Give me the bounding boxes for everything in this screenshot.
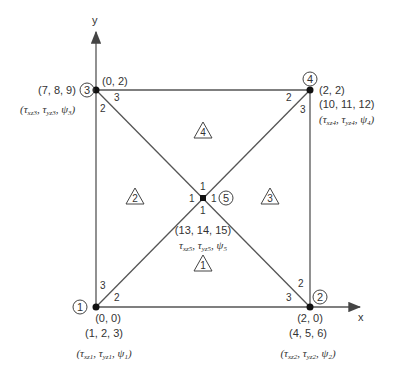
node-1-coord: (0, 0) [95, 312, 121, 324]
finite-element-mesh-diagram: y x 1 2 3 4 5 (0, 2) (7, 8, 9) (τxz3, τy… [0, 0, 410, 378]
x-axis-label: x [358, 311, 364, 323]
local-label: 3 [300, 104, 306, 115]
svg-text:1: 1 [200, 260, 206, 271]
svg-text:2: 2 [132, 193, 138, 204]
element-1-marker: 1 [194, 255, 212, 271]
element-4-marker: 4 [194, 122, 212, 138]
local-label: 2 [298, 278, 304, 289]
node-4-coord: (2, 2) [319, 84, 345, 96]
node-2-dofs: (4, 5, 6) [289, 327, 327, 339]
local-label: 1 [211, 193, 217, 204]
node-1-vars: (τxz1, τyz1, ψ1) [76, 347, 132, 361]
node-5-dofs: (13, 14, 15) [175, 224, 231, 236]
node-5-vars: τxz5, τyz5, ψ5 [179, 239, 227, 253]
node-2-coord: (2, 0) [297, 312, 323, 324]
node-4-dot [307, 87, 314, 94]
node-1-dot [93, 304, 100, 311]
local-label: 2 [100, 103, 106, 114]
local-label: 2 [286, 92, 292, 103]
node-4-dofs: (10, 11, 12) [319, 98, 374, 110]
svg-text:5: 5 [223, 192, 229, 204]
element-2-marker: 2 [126, 188, 144, 204]
node-4-vars: (τxz4, τyz4, ψ4) [319, 113, 375, 127]
svg-text:2: 2 [317, 291, 323, 303]
local-label: 3 [100, 280, 106, 291]
local-label: 3 [286, 292, 292, 303]
svg-text:4: 4 [307, 73, 313, 85]
svg-text:4: 4 [200, 127, 206, 138]
local-label: 1 [200, 205, 206, 216]
node-2-dot [307, 304, 314, 311]
local-label: 2 [114, 292, 120, 303]
node-4-number: 4 [303, 72, 317, 86]
node-1-number: 1 [73, 300, 87, 314]
svg-text:3: 3 [267, 193, 273, 204]
svg-text:1: 1 [77, 301, 83, 313]
local-label: 1 [200, 181, 206, 192]
node-3-number: 3 [80, 83, 94, 97]
node-5-dot [200, 195, 206, 201]
node-3-coord: (0, 2) [102, 75, 128, 87]
local-label: 3 [114, 92, 120, 103]
node-2-number: 2 [313, 290, 327, 304]
node-3-dofs: (7, 8, 9) [38, 84, 76, 96]
node-3-vars: (τxz3, τyz3, ψ3) [20, 103, 76, 117]
local-label: 1 [189, 193, 195, 204]
y-axis-label: y [92, 14, 98, 26]
svg-text:3: 3 [84, 84, 90, 96]
node-5-number: 5 [219, 191, 233, 205]
node-1-dofs: (1, 2, 3) [85, 327, 123, 339]
node-2-vars: (τxz2, τyz2, ψ2) [280, 347, 336, 361]
element-3-marker: 3 [261, 188, 279, 204]
